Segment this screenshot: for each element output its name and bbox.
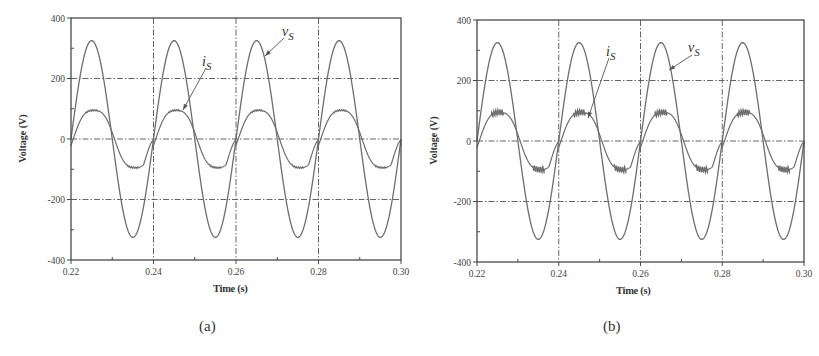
y-axis: 4002000-200-400: [454, 16, 480, 268]
svg-text:vS: vS: [282, 24, 294, 42]
y-tick-label: -200: [454, 197, 472, 207]
y-axis: 4002000-200-400: [48, 14, 74, 266]
svg-text:iS: iS: [606, 44, 616, 62]
y-axis-label: Voltage (V): [17, 108, 28, 170]
x-tick-label: 0.28: [714, 269, 731, 279]
annotation-v-s: vS: [265, 24, 294, 56]
y-tick-label: 0: [466, 137, 471, 147]
x-tick-label: 0.24: [145, 267, 162, 277]
x-tick-label: 0.24: [550, 269, 567, 279]
annotation-i-s: iS: [588, 44, 616, 118]
chart-panel-b: 4002000-200-4000.220.240.260.280.30iSvS …: [406, 0, 819, 356]
x-tick-label: 0.26: [228, 267, 245, 277]
x-tick-label: 0.22: [63, 267, 80, 277]
figure-caption: (b): [603, 318, 621, 335]
x-tick-label: 0.30: [796, 269, 813, 279]
y-tick-label: 400: [457, 16, 472, 26]
svg-text:iS: iS: [202, 54, 212, 72]
plot-area-a: 4002000-200-4000.220.240.260.280.30vSiS: [0, 0, 410, 356]
y-tick-label: 200: [457, 76, 472, 86]
y-tick-label: -400: [454, 258, 472, 268]
annotation-v-s: vS: [669, 40, 700, 70]
x-axis-label: Time (s): [213, 283, 247, 294]
y-tick-label: 0: [60, 135, 65, 145]
y-tick-label: 400: [51, 14, 66, 24]
y-tick-label: -200: [48, 195, 66, 205]
x-axis-label: Time (s): [616, 285, 650, 296]
x-tick-label: 0.26: [632, 269, 649, 279]
x-tick-label: 0.22: [469, 269, 486, 279]
annotation-i-s: iS: [183, 54, 212, 110]
y-tick-label: -400: [48, 256, 66, 266]
figure-caption: (a): [199, 318, 216, 335]
y-tick-label: 200: [51, 74, 66, 84]
chart-panel-a: 4002000-200-4000.220.240.260.280.30vSiS …: [0, 0, 410, 356]
plot-area-b: 4002000-200-4000.220.240.260.280.30iSvS: [406, 0, 819, 356]
y-axis-label: Voltage (V): [428, 110, 439, 172]
x-tick-label: 0.28: [310, 267, 327, 277]
svg-text:vS: vS: [688, 40, 700, 58]
